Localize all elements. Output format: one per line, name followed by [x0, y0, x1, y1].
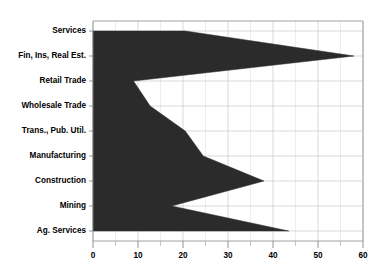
y-axis-category-label: Wholesale Trade — [21, 101, 86, 110]
x-axis-tick-label: 20 — [178, 251, 188, 260]
y-axis-category-label: Mining — [60, 201, 86, 210]
chart-container: ServicesFin, Ins, Real Est.Retail TradeW… — [0, 0, 384, 277]
x-axis-tick-label: 30 — [223, 251, 233, 260]
x-axis-tick-label: 50 — [313, 251, 323, 260]
y-axis-category-label: Trans., Pub. Util. — [22, 126, 86, 135]
x-axis-tick-label: 60 — [358, 251, 368, 260]
y-axis-category-label: Retail Trade — [40, 76, 87, 85]
y-axis-category-label: Services — [52, 26, 86, 35]
y-axis-category-label: Construction — [35, 176, 86, 185]
x-axis-tick-label: 0 — [91, 251, 96, 260]
x-axis-tick-label: 40 — [268, 251, 278, 260]
horizontal-area-chart: ServicesFin, Ins, Real Est.Retail TradeW… — [0, 0, 384, 277]
x-axis-tick-label: 10 — [133, 251, 143, 260]
y-axis-category-label: Ag. Services — [37, 226, 87, 235]
y-axis-category-label: Manufacturing — [30, 151, 86, 160]
y-axis-category-label: Fin, Ins, Real Est. — [18, 51, 86, 60]
